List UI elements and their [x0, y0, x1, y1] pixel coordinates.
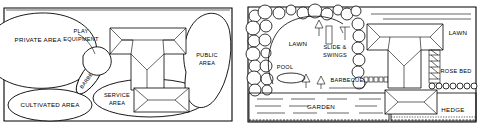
zone-slide-swings-label-1: SLIDE &: [323, 44, 346, 50]
shrub-border-top: [273, 4, 361, 20]
zone-play-equipment-label-2: EQUIPMENT: [63, 36, 99, 42]
tree-symbols: [302, 20, 325, 89]
zone-public-area-label-1: PUBLIC: [196, 52, 218, 58]
zone-play-equipment-label-1: PLAY: [74, 28, 89, 34]
right-plan-panel: LAWN POOL SLIDE & SWINGS: [243, 0, 486, 136]
zone-hedge-label: HEDGE: [441, 106, 464, 113]
zone-slide-swings[interactable]: SLIDE & SWINGS: [323, 26, 350, 58]
zone-public-area[interactable]: PUBLIC AREA: [184, 13, 231, 107]
zone-service-area-label-2: AREA: [109, 100, 125, 106]
structure-house-right: [367, 24, 443, 88]
left-plan-svg: PRIVATE AREA CULTIVATED AREA BARBECUE PL…: [0, 0, 243, 136]
zone-lawn-front-label: LAWN: [449, 29, 468, 36]
zone-barbecue-right-label: BARBECUE: [331, 77, 364, 83]
zone-lawn-rear-label: LAWN: [289, 40, 308, 47]
zone-private-area-label: PRIVATE AREA: [15, 36, 62, 43]
zone-service-area-label-1: SERVICE: [104, 92, 130, 98]
left-plan-panel: PRIVATE AREA CULTIVATED AREA BARBECUE PL…: [0, 0, 243, 136]
structure-garage-left: [134, 88, 189, 112]
rose-bed-stone-row: [429, 83, 477, 89]
zone-rose-bed[interactable]: ROSE BED: [429, 50, 477, 89]
zone-garden[interactable]: GARDEN: [249, 93, 389, 121]
zone-rose-bed-label: ROSE BED: [441, 68, 472, 74]
zone-public-area-label-2: AREA: [199, 60, 215, 66]
landscape-plan-figure: PRIVATE AREA CULTIVATED AREA BARBECUE PL…: [0, 0, 486, 136]
zone-cultivated-area-label: CULTIVATED AREA: [20, 101, 80, 108]
shrub-border-left: [246, 5, 273, 96]
zone-pool[interactable]: POOL: [277, 64, 305, 83]
zone-lawn-front[interactable]: LAWN: [449, 29, 468, 36]
right-plan-svg: LAWN POOL SLIDE & SWINGS: [243, 0, 486, 136]
zone-garden-label: GARDEN: [307, 103, 335, 110]
zone-slide-swings-label-2: SWINGS: [323, 52, 347, 58]
structure-garage-right: [385, 90, 437, 114]
zone-pool-label: POOL: [277, 64, 294, 70]
driveway: [371, 14, 471, 19]
